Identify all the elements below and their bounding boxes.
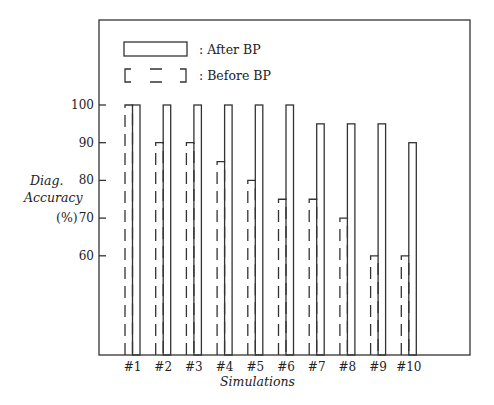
bar-group [125,105,140,355]
y-axis-title: Diag. Accuracy (%) [23,173,84,225]
bar-before-bp [309,199,317,355]
legend-label-after: : After BP [199,42,261,57]
x-tick-label: #3 [185,360,203,374]
x-tick-label: #5 [246,360,264,374]
bar-after-bp [409,143,417,355]
y-tick-label: 60 [79,249,94,263]
x-tick-label: #1 [124,360,142,374]
bar-after-bp [347,124,355,355]
bar-group [217,105,232,355]
x-tick-label: #2 [154,360,172,374]
bar-after-bp [255,105,262,355]
bar-before-bp [340,218,348,355]
x-tick-label: #6 [277,360,295,374]
bar-chart: : After BP : Before BP 60708090100 Diag.… [0,0,494,405]
y-tick-label: 80 [79,173,94,187]
bar-before-bp [248,180,256,355]
y-tick-label: 90 [79,136,94,150]
bar-before-bp [217,162,225,355]
bar-before-bp [371,256,379,355]
x-tick-label: #8 [339,360,357,374]
x-tick-label: #9 [369,360,387,374]
bar-group [371,124,386,355]
bar-group [309,124,324,355]
y-axis-title-line2: Accuracy [23,190,84,205]
plot-frame [99,20,470,355]
y-axis-title-line3: (%) [56,210,78,225]
legend-swatch-after [124,42,187,56]
x-axis-labels: #1#2#3#4#5#6#7#8#9#10 [124,360,422,374]
y-axis-ticks: 60708090100 [71,98,106,263]
x-tick-label: #7 [308,360,326,374]
bar-after-bp [225,105,233,355]
legend-label-before: : Before BP [199,68,271,83]
legend-swatch-before [125,69,186,82]
bar-after-bp [286,105,294,355]
bar-before-bp [279,199,287,355]
x-tick-label: #4 [216,360,234,374]
x-axis-title: Simulations [220,374,295,389]
bar-group [186,105,201,355]
y-axis-title-line1: Diag. [29,173,63,188]
bars [125,105,416,355]
bar-group [401,143,416,355]
bar-after-bp [133,105,141,355]
bar-before-bp [125,105,133,355]
bar-group [156,105,171,355]
bar-before-bp [156,143,164,355]
legend: : After BP : Before BP [124,42,271,83]
bar-after-bp [378,124,386,355]
bar-group [248,105,263,355]
bar-after-bp [317,124,325,355]
y-tick-label: 100 [71,98,94,112]
bar-before-bp [401,256,409,355]
bar-group [340,124,355,355]
bar-after-bp [163,105,171,355]
bar-after-bp [194,105,202,355]
bar-before-bp [186,143,194,355]
x-tick-label: #10 [396,360,421,374]
y-tick-label: 70 [79,211,94,225]
bar-group [279,105,294,355]
